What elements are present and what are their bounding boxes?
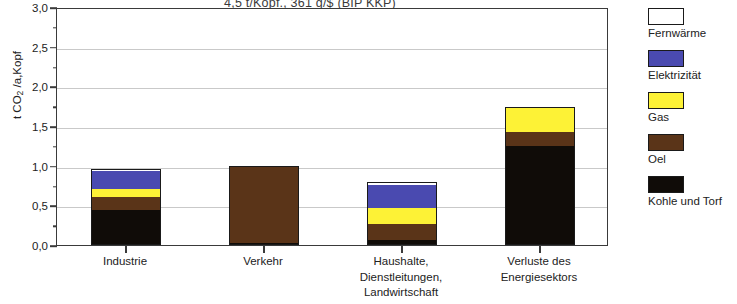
bar-segment-kohle-und-torf [505,146,575,245]
x-axis-tick [539,246,541,253]
legend-item-kohle-und-torf[interactable]: Kohle und Torf [648,176,737,207]
x-axis-tick [401,246,403,253]
bar-2[interactable] [229,166,299,245]
bar-series-group [57,9,607,245]
legend-swatch [648,176,684,193]
bar-segment-oel [229,166,299,244]
legend-item-oel[interactable]: Oel [648,134,737,165]
legend-item-elektrizit-t[interactable]: Elektrizität [648,50,737,81]
legend-label: Elektrizität [648,69,737,81]
bar-segment-elektrizit-t [367,185,437,208]
x-axis-label-line: Verkehr [194,254,332,270]
y-axis-tick-label: 0,5 [4,200,48,212]
x-axis-label-2: Verkehr [194,254,332,270]
bar-4[interactable] [505,107,575,245]
y-axis-tick-label: 1,5 [4,121,48,133]
legend-label: Gas [648,111,737,123]
bar-segment-oel [367,224,437,241]
y-axis-tick-label: 2,0 [4,81,48,93]
bar-segment-kohle-und-torf [91,210,161,245]
y-axis-tick-label: 1,0 [4,161,48,173]
legend-label: Oel [648,153,737,165]
y-axis-title-pre: t CO [11,95,23,119]
legend-item-gas[interactable]: Gas [648,92,737,123]
legend-item-fernw-rme[interactable]: Fernwärme [648,8,737,39]
legend-label: Fernwärme [648,27,737,39]
chart-legend: FernwärmeElektrizitätGasOelKohle und Tor… [648,8,737,218]
plot-area [56,8,608,246]
x-axis-label-line: Industrie [56,254,194,270]
x-axis-label-line: Verluste des [470,254,608,270]
x-axis-label-line: Energiesektors [470,270,608,286]
bar-segment-oel [91,197,161,210]
bar-segment-gas [91,189,161,197]
bar-segment-oel [505,132,575,145]
y-axis-tick-label: 3,0 [4,2,48,14]
bar-segment-gas [505,107,575,132]
legend-swatch [648,8,684,25]
bar-segment-kohle-und-torf [229,243,299,245]
x-axis-label-4: Verluste desEnergiesektors [470,254,608,285]
bar-segment-elektrizit-t [91,171,161,189]
x-axis-label-1: Industrie [56,254,194,270]
bar-segment-kohle-und-torf [367,240,437,245]
x-axis-tick [263,246,265,253]
x-axis-label-line: Haushalte, [332,254,470,270]
chart-figure: 4,5 t/Kopf., 361 g/$ (BIP KKP) t CO2 /a,… [0,0,737,304]
bar-1[interactable] [91,169,161,245]
bar-3[interactable] [367,182,437,245]
legend-label: Kohle und Torf [648,195,737,207]
legend-swatch [648,134,684,151]
x-axis-label-3: Haushalte,Dienstleitungen,Landwirtschaft [332,254,470,301]
y-axis-tick-label: 0,0 [4,240,48,252]
legend-swatch [648,92,684,109]
bar-segment-gas [367,208,437,224]
legend-swatch [648,50,684,67]
x-axis-tick [125,246,127,253]
x-axis-label-line: Landwirtschaft [332,285,470,301]
y-axis-tick-label: 2,5 [4,42,48,54]
x-axis-label-line: Dienstleitungen, [332,270,470,286]
